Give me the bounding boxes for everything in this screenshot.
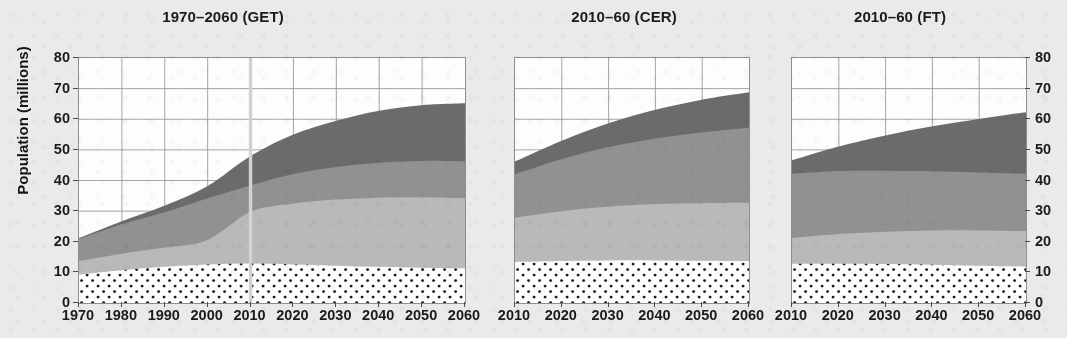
- y-tick-mark: [73, 118, 78, 119]
- x-tick-mark: [1025, 302, 1026, 307]
- x-tick-label: 2060: [448, 308, 480, 323]
- y-tick-label: 70: [54, 81, 70, 96]
- x-tick-mark: [335, 302, 336, 307]
- x-tick-label: 2040: [915, 308, 947, 323]
- y-tick-label: 50: [1035, 142, 1051, 157]
- y-tick-label: 80: [1035, 50, 1051, 65]
- x-tick-label: 2020: [545, 308, 577, 323]
- stacked-area-svg-ft: [792, 58, 1026, 303]
- y-tick-mark: [73, 180, 78, 181]
- y-tick-label: 30: [1035, 203, 1051, 218]
- x-tick-mark: [378, 302, 379, 307]
- x-tick-mark: [748, 302, 749, 307]
- y-axis-tick-labels-right: 01020304050607080: [1035, 0, 1067, 338]
- y-tick-label: 80: [54, 50, 70, 65]
- y-tick-mark: [73, 149, 78, 150]
- x-tick-label: 2010: [775, 308, 807, 323]
- x-tick-label: 2020: [822, 308, 854, 323]
- x-tick-label: 2020: [276, 308, 308, 323]
- plot-area-get: [78, 57, 466, 304]
- y-tick-mark: [1025, 57, 1030, 58]
- y-tick-mark: [73, 271, 78, 272]
- x-tick-mark: [931, 302, 932, 307]
- x-tick-label: 1990: [148, 308, 180, 323]
- x-axis-tick-labels-get: 1970198019902000201020202030204020502060: [0, 308, 478, 330]
- chart-panel-cer: 2010–60 (CER) 201020202030204020502060: [492, 0, 772, 338]
- y-tick-label: 70: [1035, 81, 1051, 96]
- x-tick-label: 2030: [591, 308, 623, 323]
- y-tick-mark: [1025, 180, 1030, 181]
- x-tick-label: 2060: [732, 308, 764, 323]
- y-tick-label: 60: [54, 111, 70, 126]
- x-tick-mark: [514, 302, 515, 307]
- x-tick-label: 1980: [105, 308, 137, 323]
- y-tick-label: 20: [1035, 234, 1051, 249]
- y-tick-mark: [73, 57, 78, 58]
- x-tick-label: 2060: [1009, 308, 1041, 323]
- x-tick-mark: [164, 302, 165, 307]
- x-tick-label: 2050: [685, 308, 717, 323]
- x-tick-mark: [421, 302, 422, 307]
- x-tick-mark: [561, 302, 562, 307]
- y-axis-title: Population (millions): [14, 21, 31, 221]
- plot-area-ft: [791, 57, 1027, 304]
- y-tick-label: 60: [1035, 111, 1051, 126]
- x-tick-mark: [654, 302, 655, 307]
- x-tick-mark: [464, 302, 465, 307]
- x-tick-label: 2000: [191, 308, 223, 323]
- x-tick-mark: [885, 302, 886, 307]
- chart-panel-get: 1970–2060 (GET) Population (millions) 01…: [0, 0, 478, 338]
- x-tick-mark: [292, 302, 293, 307]
- y-tick-mark: [1025, 149, 1030, 150]
- y-tick-label: 10: [1035, 264, 1051, 279]
- x-tick-mark: [608, 302, 609, 307]
- x-tick-mark: [78, 302, 79, 307]
- y-tick-label: 20: [54, 234, 70, 249]
- plot-area-cer: [514, 57, 750, 304]
- y-tick-label: 40: [54, 173, 70, 188]
- y-axis-tick-labels-left: 01020304050607080: [36, 0, 70, 338]
- y-tick-mark: [73, 210, 78, 211]
- x-axis-tick-labels-cer: 201020202030204020502060: [492, 308, 772, 330]
- x-tick-mark: [838, 302, 839, 307]
- x-tick-label: 2030: [319, 308, 351, 323]
- x-tick-label: 1970: [62, 308, 94, 323]
- panel-title-cer: 2010–60 (CER): [492, 8, 756, 25]
- x-tick-mark: [791, 302, 792, 307]
- y-tick-label: 30: [54, 203, 70, 218]
- x-tick-mark: [250, 302, 251, 307]
- x-tick-label: 2010: [233, 308, 265, 323]
- x-tick-mark: [121, 302, 122, 307]
- y-tick-mark: [1025, 210, 1030, 211]
- y-tick-mark: [1025, 241, 1030, 242]
- x-tick-label: 2010: [498, 308, 530, 323]
- x-axis-tick-labels-ft: 201020202030204020502060: [769, 308, 1067, 330]
- x-tick-label: 2030: [868, 308, 900, 323]
- y-tick-mark: [73, 88, 78, 89]
- x-tick-mark: [978, 302, 979, 307]
- y-tick-label: 10: [54, 264, 70, 279]
- x-tick-label: 2050: [405, 308, 437, 323]
- x-tick-label: 2050: [962, 308, 994, 323]
- y-tick-mark: [1025, 271, 1030, 272]
- panel-title-ft: 2010–60 (FT): [769, 8, 1031, 25]
- y-tick-mark: [73, 241, 78, 242]
- y-tick-label: 40: [1035, 173, 1051, 188]
- stacked-area-svg-get: [79, 58, 465, 303]
- x-tick-mark: [701, 302, 702, 307]
- y-tick-label: 50: [54, 142, 70, 157]
- x-tick-label: 2040: [638, 308, 670, 323]
- x-tick-mark: [207, 302, 208, 307]
- chart-panel-ft: 2010–60 (FT) 01020304050607080 201020202…: [769, 0, 1067, 338]
- y-tick-mark: [1025, 118, 1030, 119]
- x-tick-label: 2040: [362, 308, 394, 323]
- y-tick-mark: [1025, 88, 1030, 89]
- stacked-area-svg-cer: [515, 58, 749, 303]
